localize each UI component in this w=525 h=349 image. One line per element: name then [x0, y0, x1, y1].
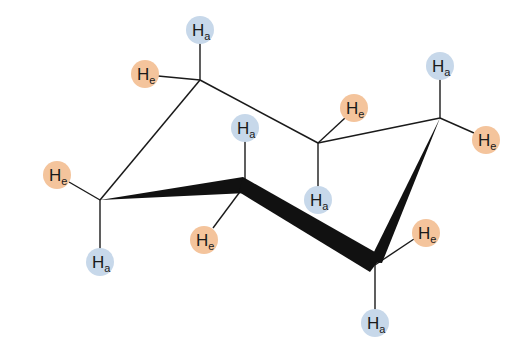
- hydrogen-axial-c1: Ha: [186, 16, 214, 44]
- ring-back-bonds: [100, 80, 440, 200]
- hydrogen-equatorial-c5: He: [190, 226, 218, 254]
- ring-bond-c1-c2: [200, 80, 318, 143]
- hydrogen-equatorial-c2: He: [340, 94, 368, 122]
- hydrogen-axial-c4: Ha: [361, 309, 389, 337]
- hydrogen-axial-c3: Ha: [426, 52, 454, 80]
- hydrogen-axial-c6: Ha: [86, 248, 114, 276]
- hydrogen-axial-c5: Ha: [231, 114, 259, 142]
- ring-bond-c2-c3: [318, 118, 440, 143]
- bond-c3-he: [440, 118, 474, 133]
- bond-c2-he: [318, 118, 345, 143]
- hydrogen-equatorial-c6: He: [43, 161, 71, 189]
- wedge-c6-c5: [100, 177, 247, 200]
- bond-c1-he: [158, 76, 200, 80]
- ring-front-bonds: [100, 118, 440, 272]
- hydrogen-equatorial-c4: He: [412, 219, 440, 247]
- cyclohexane-chair-diagram: HaHeHaHeHaHeHaHeHaHeHaHe: [0, 0, 525, 349]
- hydrogen-axial-c2: Ha: [304, 186, 332, 214]
- hydrogen-atoms: HaHeHaHeHaHeHaHeHaHeHaHe: [43, 16, 500, 337]
- hydrogen-equatorial-c3: He: [472, 126, 500, 154]
- bond-c6-he: [69, 182, 100, 200]
- hydrogen-equatorial-c1: He: [131, 60, 159, 88]
- ring-bond-c6-c1: [100, 80, 200, 200]
